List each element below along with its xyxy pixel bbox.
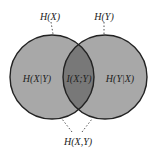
label-mutual-information: I(X;Y) [67,73,92,84]
label-joint-entropy: H(X,Y) [64,136,92,147]
label-hy-given-x: H(Y|X) [106,73,134,84]
label-hy: H(Y) [94,11,113,22]
label-hx-given-y: H(X|Y) [23,73,51,84]
pointer-joint-right [82,119,92,132]
label-hx: H(X) [40,11,60,22]
pointer-joint-left [62,119,72,132]
pointer-hx [51,22,53,34]
